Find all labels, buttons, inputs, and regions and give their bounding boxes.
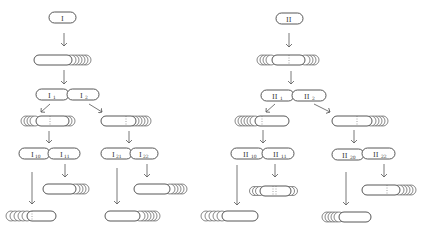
- label-II11: II: [273, 151, 279, 159]
- cell-II-divided: II 1 II 2: [261, 90, 326, 101]
- label-II1: II: [272, 93, 278, 101]
- cell-II1-divided: II 10 II 11: [231, 148, 294, 159]
- cell-II1-elongated: [235, 116, 289, 126]
- label-I11: I: [60, 151, 63, 159]
- cell-II20-elongated: [322, 212, 371, 222]
- svg-text:20: 20: [350, 155, 356, 160]
- svg-text:22: 22: [381, 154, 387, 159]
- cell-I22-elongated: [134, 184, 187, 194]
- arrow-icon: [314, 104, 330, 112]
- cell-I11-elongated: [43, 184, 89, 194]
- cell-I-elongated: [34, 55, 91, 65]
- label-I21: I: [112, 151, 115, 159]
- label-II10: II: [243, 151, 249, 159]
- tree-II: II II 1 II 2: [201, 13, 416, 222]
- cell-I2-divided: I 21 I 22: [101, 148, 158, 159]
- label-II: II: [286, 16, 292, 24]
- label-I1: I: [48, 92, 51, 100]
- cell-I1-elongated: [21, 116, 75, 126]
- label-I10: I: [31, 151, 34, 159]
- cell-II2-elongated: [332, 116, 388, 126]
- label-II22: II: [373, 151, 379, 159]
- cell-I2-elongated: [101, 116, 151, 126]
- tree-I: I I 1 I 2: [6, 12, 187, 221]
- cell-I1-divided: I 10 I 11: [19, 148, 80, 159]
- arrow-icon: [89, 104, 102, 112]
- cell-II-elongated: [257, 55, 319, 65]
- svg-text:10: 10: [35, 154, 41, 159]
- label-I2: I: [80, 92, 83, 100]
- cell-II11-elongated: [250, 186, 298, 196]
- cell-II-root: II: [276, 13, 303, 24]
- cell-I-root: I: [49, 12, 76, 23]
- svg-text:2: 2: [312, 96, 315, 101]
- arrow-icon: [266, 104, 275, 112]
- svg-text:1: 1: [53, 95, 56, 100]
- label-I: I: [61, 15, 64, 23]
- label-II2: II: [304, 93, 310, 101]
- svg-text:10: 10: [251, 154, 257, 159]
- cell-II2-divided: II 20 II 22: [332, 148, 395, 160]
- label-II20: II: [342, 152, 348, 160]
- svg-text:22: 22: [143, 154, 149, 159]
- lineage-diagram: I I 1 I 2: [0, 0, 422, 238]
- svg-text:11: 11: [64, 154, 70, 159]
- cell-I21-elongated: [105, 211, 160, 221]
- svg-text:11: 11: [281, 154, 287, 159]
- label-I22: I: [139, 151, 142, 159]
- cell-II10-elongated: [201, 211, 258, 221]
- arrow-icon: [41, 104, 50, 112]
- svg-text:21: 21: [116, 154, 122, 159]
- cell-II22-elongated: [362, 185, 416, 195]
- svg-text:1: 1: [280, 96, 283, 101]
- cell-I-divided: I 1 I 2: [36, 89, 99, 100]
- cell-I10-elongated: [6, 211, 56, 221]
- svg-text:2: 2: [85, 95, 88, 100]
